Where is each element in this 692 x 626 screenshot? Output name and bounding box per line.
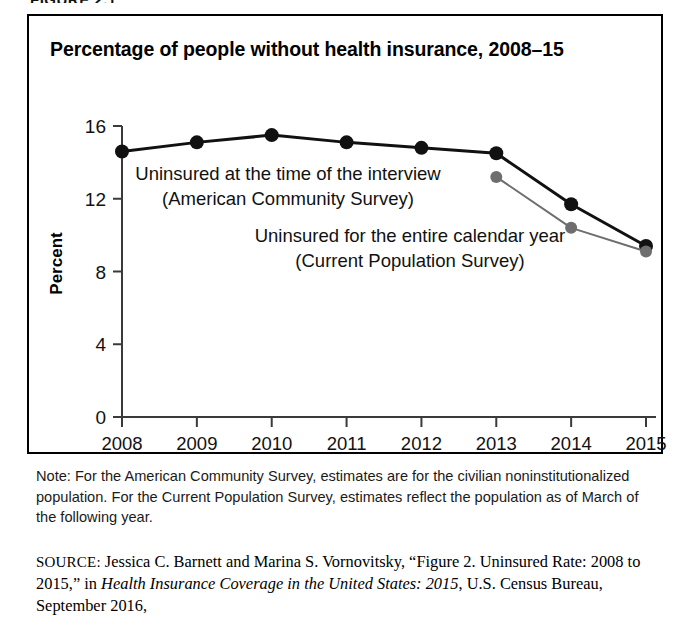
y-tick-label: 4	[95, 334, 106, 355]
data-point-acs	[564, 197, 578, 211]
x-tick-label: 2010	[251, 433, 292, 454]
x-tick-label: 2009	[176, 433, 217, 454]
chart-plot-area: 0481216Percent20082009201020112012201320…	[0, 0, 692, 470]
x-tick-label: 2013	[476, 433, 517, 454]
x-tick-label: 2015	[625, 433, 666, 454]
data-point-acs	[115, 144, 129, 158]
chart-note: Note: For the American Community Survey,…	[36, 466, 662, 528]
line-chart-svg: 0481216Percent20082009201020112012201320…	[0, 0, 692, 470]
x-tick-label: 2012	[401, 433, 442, 454]
data-point-acs	[265, 128, 279, 142]
x-tick-label: 2011	[327, 433, 367, 454]
y-axis-title: Percent	[47, 232, 66, 295]
data-point-cps	[490, 171, 502, 183]
x-tick-label: 2014	[551, 433, 592, 454]
data-point-acs	[340, 135, 354, 149]
y-tick-label: 12	[85, 189, 106, 210]
chart-source: SOURCE: Jessica C. Barnett and Marina S.…	[36, 551, 662, 617]
annotation-acs-line2: (American Community Survey)	[162, 188, 414, 209]
y-tick-label: 8	[95, 262, 106, 283]
source-italic-title: Health Insurance Coverage in the United …	[101, 574, 458, 593]
y-tick-label: 0	[95, 407, 106, 428]
annotation-cps-line2: (Current Population Survey)	[295, 250, 524, 271]
annotation-acs-line1: Uninsured at the time of the interview	[135, 163, 441, 184]
data-point-cps	[640, 245, 652, 257]
source-label: SOURCE:	[36, 554, 101, 570]
annotation-cps-line1: Uninsured for the entire calendar year	[255, 225, 566, 246]
data-point-acs	[190, 135, 204, 149]
data-point-cps	[565, 222, 577, 234]
data-point-acs	[414, 141, 428, 155]
x-tick-label: 2008	[101, 433, 142, 454]
y-tick-label: 16	[85, 116, 106, 137]
data-point-acs	[489, 146, 503, 160]
